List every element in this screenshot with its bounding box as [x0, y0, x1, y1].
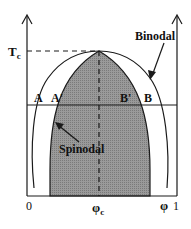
- binodal-label: Binodal: [135, 29, 176, 43]
- phase-diagram: Tc Binodal Spinodal A A' B' B 0 φc φ 1: [0, 0, 191, 229]
- point-a-prime-label: A': [51, 91, 63, 105]
- point-a-label: A: [34, 91, 43, 105]
- phi-axis-label: φ: [160, 198, 168, 213]
- spinodal-region: [50, 51, 150, 196]
- binodal-pointer: [152, 43, 164, 76]
- phic-label: φc: [92, 200, 104, 217]
- binodal-arrow-icon: [148, 70, 156, 80]
- x-one-label: 1: [173, 199, 179, 213]
- x-origin-label: 0: [26, 199, 32, 213]
- spinodal-label: Spinodal: [59, 142, 105, 156]
- point-b-prime-label: B': [120, 91, 131, 105]
- tc-label: Tc: [8, 44, 21, 61]
- point-b-label: B: [144, 91, 152, 105]
